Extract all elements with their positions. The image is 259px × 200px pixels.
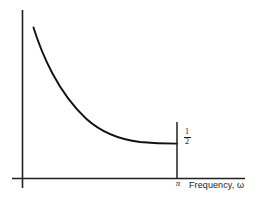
- fraction-denominator: 2: [180, 138, 194, 146]
- plot-canvas: [0, 0, 259, 200]
- spectrum-curve: [34, 28, 178, 144]
- x-axis-title: Frequency, ω: [189, 180, 244, 190]
- figure-container: π 1 2 Frequency, ω: [0, 0, 259, 200]
- fraction-numerator: 1: [180, 128, 194, 136]
- asymptote-value-fraction: 1 2: [180, 128, 194, 147]
- x-tick-label-pi: π: [172, 179, 184, 188]
